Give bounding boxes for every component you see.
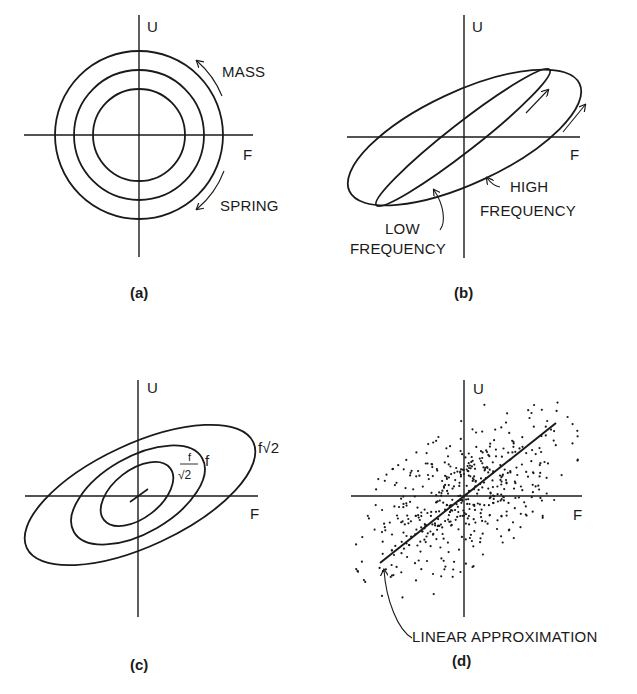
scatter-point bbox=[381, 531, 383, 533]
f-axis-label: F bbox=[570, 146, 579, 163]
scatter-point bbox=[427, 474, 429, 476]
caption-d: (d) bbox=[452, 652, 471, 669]
scatter-point bbox=[470, 534, 472, 536]
scatter-point bbox=[409, 501, 411, 503]
scatter-point bbox=[460, 502, 462, 504]
scatter-point bbox=[446, 478, 448, 480]
scatter-point bbox=[412, 488, 414, 490]
scatter-point bbox=[447, 493, 449, 495]
scatter-point bbox=[515, 467, 517, 469]
contour-label-inner-numerator: f bbox=[188, 451, 192, 463]
scatter-point bbox=[476, 493, 478, 495]
scatter-point bbox=[556, 402, 558, 404]
scatter-point bbox=[467, 517, 469, 519]
scatter-point bbox=[467, 498, 469, 500]
scatter-point bbox=[457, 528, 459, 530]
scatter-point bbox=[449, 465, 451, 467]
scatter-point bbox=[426, 560, 428, 562]
scatter-point bbox=[546, 477, 548, 479]
scatter-point bbox=[532, 491, 534, 493]
scatter-point bbox=[479, 458, 481, 460]
scatter-point bbox=[418, 517, 420, 519]
scatter-point bbox=[492, 502, 494, 504]
scatter-point bbox=[391, 468, 393, 470]
scatter-point bbox=[443, 485, 445, 487]
scatter-point bbox=[440, 557, 442, 559]
scatter-point bbox=[475, 431, 477, 433]
scatter-point bbox=[385, 568, 387, 570]
scatter-point bbox=[482, 451, 484, 453]
scatter-point bbox=[481, 457, 483, 459]
scatter-point bbox=[396, 566, 398, 568]
scatter-point bbox=[519, 526, 521, 528]
scatter-point bbox=[484, 469, 486, 471]
scatter-point bbox=[473, 530, 475, 532]
scatter-point bbox=[419, 551, 421, 553]
scatter-point bbox=[430, 545, 432, 547]
scatter-point bbox=[445, 447, 447, 449]
scatter-point bbox=[374, 529, 376, 531]
scatter-point bbox=[472, 460, 474, 462]
scatter-point bbox=[542, 515, 544, 517]
scatter-point bbox=[455, 467, 457, 469]
scatter-point bbox=[448, 484, 450, 486]
scatter-point bbox=[504, 469, 506, 471]
scatter-point bbox=[530, 412, 532, 414]
scatter-point bbox=[454, 479, 456, 481]
scatter-point bbox=[495, 449, 497, 451]
scatter-point bbox=[561, 474, 563, 476]
scatter-point bbox=[507, 502, 509, 504]
scatter-point bbox=[397, 517, 399, 519]
scatter-point bbox=[472, 545, 474, 547]
scatter-point bbox=[396, 514, 398, 516]
scatter-point bbox=[473, 518, 475, 520]
scatter-point bbox=[393, 554, 395, 556]
scatter-point bbox=[436, 470, 438, 472]
scatter-point bbox=[377, 478, 379, 480]
scatter-point bbox=[521, 436, 523, 438]
scatter-point bbox=[436, 529, 438, 531]
scatter-point bbox=[528, 417, 530, 419]
scatter-point bbox=[461, 453, 463, 455]
scatter-point bbox=[410, 472, 412, 474]
high-frequency-pointer-icon bbox=[487, 178, 500, 187]
scatter-point bbox=[426, 452, 428, 454]
scatter-point bbox=[505, 422, 507, 424]
scatter-point bbox=[429, 530, 431, 532]
scatter-point bbox=[417, 514, 419, 516]
scatter-point bbox=[516, 474, 518, 476]
scatter-point bbox=[496, 519, 498, 521]
scatter-point bbox=[434, 522, 436, 524]
scatter-point bbox=[518, 447, 520, 449]
scatter-point bbox=[405, 535, 407, 537]
scatter-point bbox=[443, 538, 445, 540]
scatter-point bbox=[518, 496, 520, 498]
scatter-point bbox=[355, 568, 357, 570]
scatter-point bbox=[540, 451, 542, 453]
u-axis-label: U bbox=[147, 379, 158, 396]
scatter-point bbox=[415, 579, 417, 581]
scatter-point bbox=[431, 466, 433, 468]
scatter-point bbox=[535, 485, 537, 487]
scatter-point bbox=[414, 562, 416, 564]
scatter-point bbox=[406, 515, 408, 517]
scatter-point bbox=[404, 523, 406, 525]
scatter-point bbox=[514, 451, 516, 453]
panel-b: U F HIGH FREQUENCY LOW FREQUENCY (b) bbox=[330, 15, 599, 301]
scatter-point bbox=[533, 426, 535, 428]
scatter-point bbox=[441, 526, 443, 528]
scatter-point bbox=[572, 423, 574, 425]
scatter-point bbox=[488, 455, 490, 457]
contour-label-middle: f bbox=[205, 452, 210, 469]
scatter-point bbox=[546, 420, 548, 422]
scatter-point bbox=[470, 467, 472, 469]
scatter-point bbox=[474, 468, 476, 470]
scatter-point bbox=[539, 475, 541, 477]
scatter-point bbox=[473, 464, 475, 466]
scatter-point bbox=[447, 455, 449, 457]
scatter-point bbox=[453, 561, 455, 563]
scatter-point bbox=[546, 492, 548, 494]
scatter-point bbox=[485, 449, 487, 451]
scatter-point bbox=[520, 485, 522, 487]
linear-approximation-label: LINEAR APPROXIMATION bbox=[412, 628, 597, 645]
